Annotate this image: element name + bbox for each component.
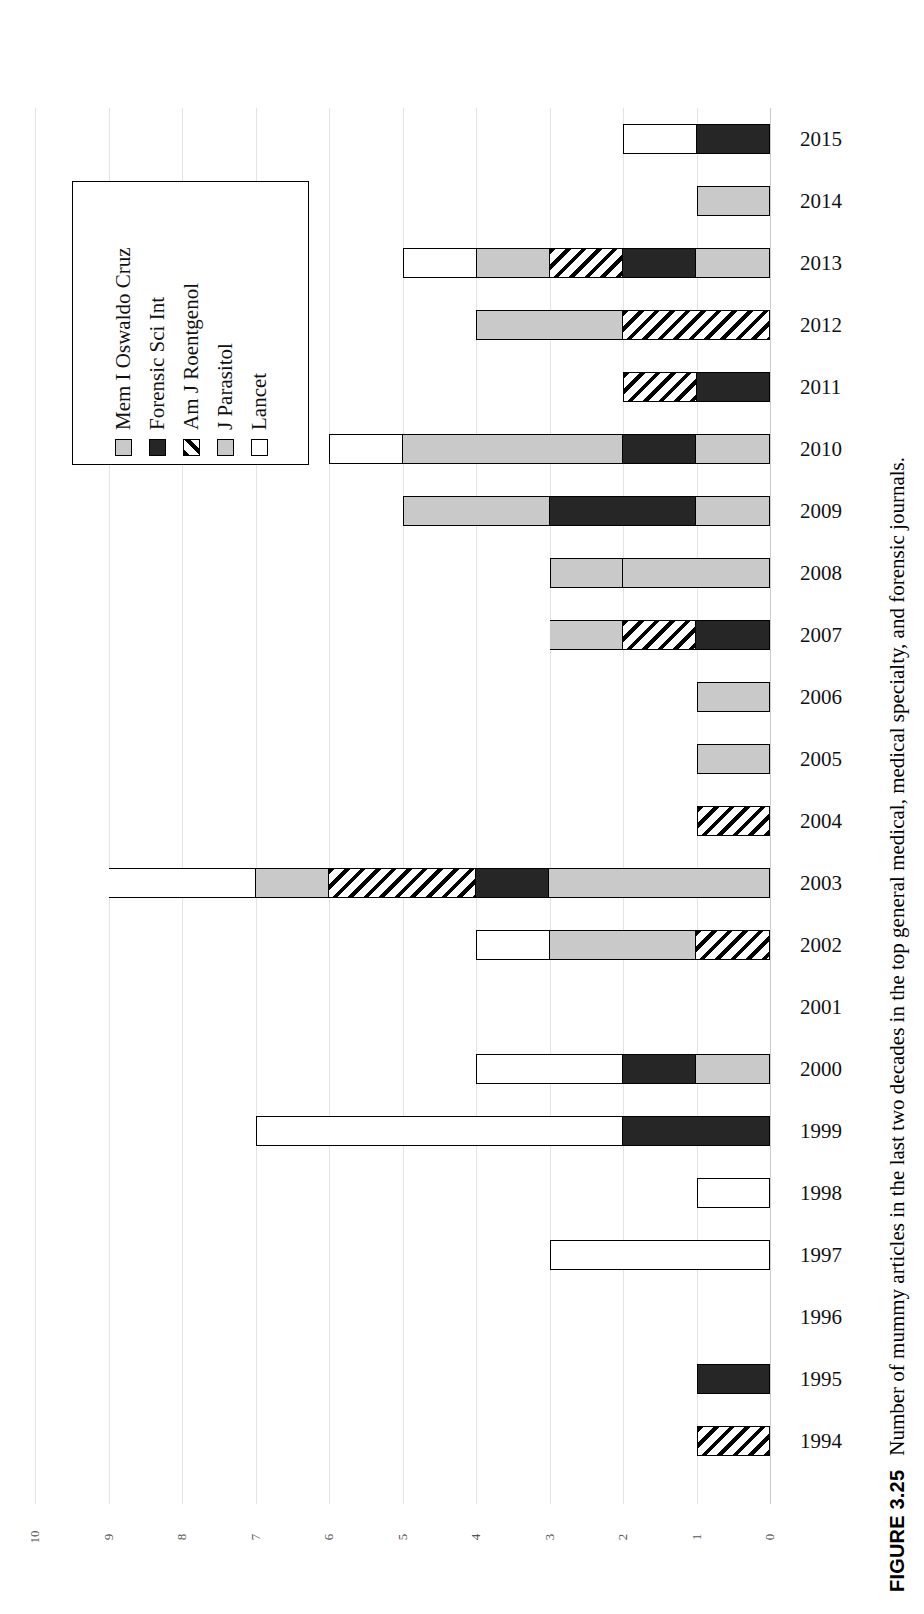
stacked-bar[interactable] [329,434,770,464]
category-label-2009: 2009 [800,480,864,542]
bar-segment[interactable] [696,249,769,277]
category-label-2002: 2002 [800,914,864,976]
value-tick-8: 8 [174,1517,190,1557]
bar-segment[interactable] [696,931,769,959]
stacked-bar[interactable] [109,868,771,898]
bar-segment[interactable] [697,373,770,401]
bar-segment[interactable] [623,249,696,277]
legend-item[interactable]: Lancet [247,192,272,456]
bar-segment[interactable] [697,125,770,153]
stacked-bar[interactable] [697,186,771,216]
bar-segment[interactable] [623,1055,696,1083]
bar-segment[interactable] [698,1179,770,1207]
bar-segment[interactable] [256,869,329,897]
stacked-bar[interactable] [697,682,771,712]
bar-segment[interactable] [550,497,696,525]
category-label-1997: 1997 [800,1224,864,1286]
stacked-bar[interactable] [697,806,771,836]
category-label-2004: 2004 [800,790,864,852]
bar-segment[interactable] [550,621,623,649]
bar-segment[interactable] [476,869,549,897]
legend-swatch-icon [149,439,166,456]
legend-item[interactable]: Mem I Oswaldo Cruz [111,192,136,456]
chart-legend: Mem I Oswaldo CruzForensic Sci IntAm J R… [72,181,309,465]
bar-segment[interactable] [623,1117,769,1145]
legend-label: Am J Roentgenol [179,283,204,430]
bar-row: 2001 [0,976,924,1038]
bar-segment[interactable] [698,807,770,835]
legend-item[interactable]: J Parasitol [213,192,238,456]
legend-item[interactable]: Forensic Sci Int [145,192,170,456]
legend-items: Mem I Oswaldo CruzForensic Sci IntAm J R… [73,182,310,466]
stacked-bar[interactable] [697,1364,771,1394]
category-label-2011: 2011 [800,356,864,418]
bar-segment[interactable] [623,559,769,587]
value-tick-1: 1 [689,1517,705,1557]
stacked-bar[interactable] [550,1240,771,1270]
bar-segment[interactable] [698,745,770,773]
legend-swatch-icon [183,439,200,456]
bar-row: 1995 [0,1348,924,1410]
bar-segment[interactable] [330,435,403,463]
stacked-bar[interactable] [403,248,771,278]
category-label-2001: 2001 [800,976,864,1038]
bar-row: 1997 [0,1224,924,1286]
bar-segment[interactable] [329,869,476,897]
bar-segment[interactable] [624,125,697,153]
bar-segment[interactable] [624,373,697,401]
category-label-2012: 2012 [800,294,864,356]
legend-item[interactable]: Am J Roentgenol [179,192,204,456]
bar-segment[interactable] [698,1427,770,1455]
stacked-bar[interactable] [697,1426,771,1456]
category-label-1996: 1996 [800,1286,864,1348]
bar-segment[interactable] [477,311,623,339]
stacked-bar[interactable] [550,558,771,588]
stacked-bar[interactable] [476,1054,770,1084]
bar-segment[interactable] [477,1055,623,1083]
stacked-bar[interactable] [697,744,771,774]
bar-segment[interactable] [403,435,623,463]
category-label-2006: 2006 [800,666,864,728]
bar-segment[interactable] [550,249,623,277]
stacked-bar[interactable] [623,124,770,154]
bar-row: 2002 [0,914,924,976]
bar-row: 1999 [0,1100,924,1162]
bar-segment[interactable] [698,683,770,711]
bar-row: 1996 [0,1286,924,1348]
stacked-bar[interactable] [697,1178,771,1208]
bar-segment[interactable] [257,1117,623,1145]
bar-segment[interactable] [477,931,550,959]
bar-segment[interactable] [698,187,770,215]
stacked-bar[interactable] [476,310,770,340]
bar-segment[interactable] [550,931,696,959]
category-label-1995: 1995 [800,1348,864,1410]
bar-segment[interactable] [696,621,769,649]
value-tick-0: 0 [762,1517,778,1557]
bar-segment[interactable] [404,497,550,525]
stacked-bar[interactable] [476,930,770,960]
bar-segment[interactable] [404,249,477,277]
bar-segment[interactable] [696,435,769,463]
bar-row: 2004 [0,790,924,852]
bar-segment[interactable] [549,869,769,897]
bar-segment[interactable] [623,311,769,339]
bar-segment[interactable] [477,249,550,277]
bar-segment[interactable] [551,559,624,587]
bar-segment[interactable] [696,1055,769,1083]
stacked-bar[interactable] [550,620,771,650]
bar-segment[interactable] [698,1365,770,1393]
value-tick-6: 6 [321,1517,337,1557]
bar-segment[interactable] [551,1241,770,1269]
bar-row: 2008 [0,542,924,604]
value-tick-2: 2 [615,1517,631,1557]
bar-segment[interactable] [623,621,696,649]
stacked-bar[interactable] [403,496,771,526]
stacked-bar[interactable] [256,1116,771,1146]
bar-row: 1998 [0,1162,924,1224]
bar-segment[interactable] [623,435,696,463]
category-label-2013: 2013 [800,232,864,294]
figure-caption: FIGURE 3.25 Number of mummy articles in … [874,0,920,1600]
bar-segment[interactable] [696,497,769,525]
stacked-bar[interactable] [623,372,770,402]
bar-segment[interactable] [109,869,256,897]
